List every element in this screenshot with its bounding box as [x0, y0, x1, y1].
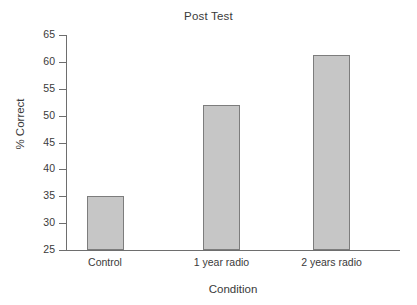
y-tick-label: 35	[21, 190, 55, 201]
y-tick-label: 25	[21, 244, 55, 255]
y-tick-mark	[59, 250, 66, 251]
y-axis-line	[66, 35, 67, 250]
bar-chart: Post Test 253035404550556065 % Correct C…	[0, 0, 417, 305]
x-tick-label: 2 years radio	[272, 256, 392, 268]
chart-title: Post Test	[0, 10, 417, 22]
y-tick-mark	[59, 223, 66, 224]
bar	[87, 196, 124, 250]
x-axis-title: Condition	[66, 283, 400, 295]
y-tick-mark	[59, 62, 66, 63]
y-tick-mark	[59, 169, 66, 170]
y-axis-title: % Correct	[14, 84, 26, 164]
y-tick-mark	[59, 196, 66, 197]
y-tick-label: 30	[21, 217, 55, 228]
y-tick-mark	[59, 143, 66, 144]
y-tick-label: 50	[21, 110, 55, 121]
x-tick-label: Control	[45, 256, 165, 268]
bar	[313, 55, 350, 250]
y-tick-label: 55	[21, 83, 55, 94]
bar	[203, 105, 240, 250]
y-tick-label: 60	[21, 56, 55, 67]
y-tick-label: 45	[21, 137, 55, 148]
y-tick-label: 65	[21, 29, 55, 40]
x-tick-label: 1 year radio	[162, 256, 282, 268]
y-tick-mark	[59, 35, 66, 36]
y-tick-mark	[59, 89, 66, 90]
y-tick-mark	[59, 116, 66, 117]
y-tick-label: 40	[21, 163, 55, 174]
x-axis-line	[66, 250, 400, 251]
